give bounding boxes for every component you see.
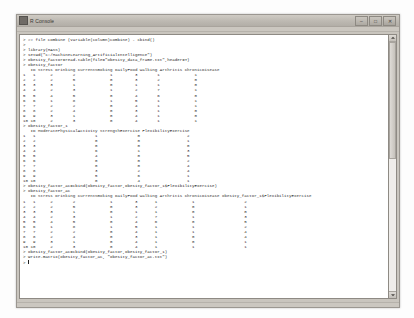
screen: R Console – □ ✕ > ## file combine (varia…	[0, 0, 414, 318]
window-title: R Console	[30, 18, 54, 24]
r-logo-icon	[19, 16, 28, 25]
console-text: > ## file combine (variable(column)combi…	[20, 35, 388, 268]
r-console-window: R Console – □ ✕ > ## file combine (varia…	[16, 14, 400, 308]
titlebar-left: R Console	[19, 16, 54, 25]
maximize-button[interactable]: □	[369, 16, 382, 26]
vertical-scrollbar[interactable]	[389, 34, 397, 299]
window-titlebar[interactable]: R Console – □ ✕	[17, 15, 399, 27]
scroll-up-button[interactable]	[389, 35, 396, 42]
scrollbar-track[interactable]	[389, 42, 396, 291]
minimize-button[interactable]: –	[355, 16, 368, 26]
console-line: >	[23, 260, 386, 266]
status-bar	[17, 302, 399, 307]
console-area: > ## file combine (variable(column)combi…	[17, 32, 399, 302]
window-controls: – □ ✕	[355, 16, 397, 26]
scrollbar-thumb[interactable]	[389, 42, 396, 159]
maximize-icon: □	[370, 17, 381, 25]
console-output-pane[interactable]: > ## file combine (variable(column)combi…	[19, 34, 389, 299]
close-icon: ✕	[384, 17, 395, 25]
scroll-down-arrow-icon	[391, 294, 395, 296]
minimize-icon: –	[356, 17, 367, 25]
scroll-up-arrow-icon	[391, 37, 395, 39]
text-caret	[28, 260, 29, 264]
scroll-down-button[interactable]	[389, 291, 396, 298]
close-button[interactable]: ✕	[383, 16, 396, 26]
